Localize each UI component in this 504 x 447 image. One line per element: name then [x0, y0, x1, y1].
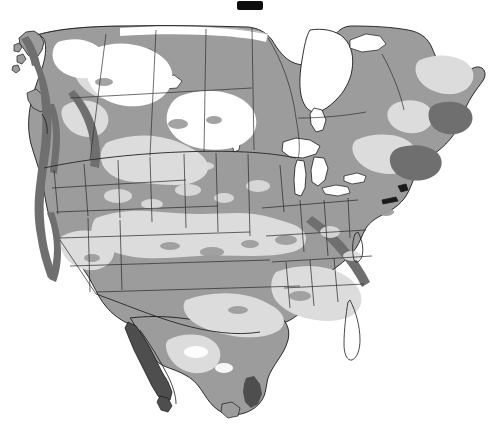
texture-patch [215, 363, 233, 373]
texture-patch [198, 162, 214, 170]
texture-patch [95, 78, 113, 86]
texture-patch [184, 346, 208, 358]
texture-patch [141, 199, 163, 209]
top-black-bar-artifact [237, 1, 263, 10]
texture-patch [241, 240, 259, 248]
texture-patch [343, 251, 361, 261]
north-america-map [0, 0, 504, 447]
texture-patch [206, 116, 222, 124]
texture-patch [289, 291, 311, 301]
texture-patch [84, 254, 100, 262]
texture-patch [378, 208, 394, 216]
texture-patch [104, 189, 132, 203]
texture-patch [160, 242, 180, 250]
texture-patch [168, 119, 188, 129]
texture-patch [354, 191, 374, 201]
texture-patch [246, 180, 270, 192]
texture-patch [131, 166, 149, 174]
texture-patch [175, 184, 201, 196]
texture-patch [228, 306, 248, 314]
map-figure: Grayscale thematic map of North America [0, 0, 504, 447]
texture-patch [275, 235, 297, 245]
texture-patch [200, 247, 224, 257]
